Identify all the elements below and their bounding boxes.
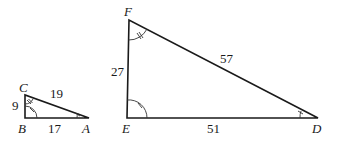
vertex-e-label: E [121,121,130,136]
side-ba-length: 17 [48,121,62,136]
vertex-a-label: A [81,121,90,136]
similar-triangles-figure: C B A 9 19 17 F E D 27 57 51 [0,0,342,144]
side-fd-length: 57 [220,51,234,66]
vertex-c-label: C [19,80,28,95]
side-ed-length: 51 [207,121,220,136]
side-ca-length: 19 [50,86,63,101]
vertex-f-label: F [123,4,133,19]
triangle-def-outline [127,20,318,118]
triangle-abc: C B A 9 19 17 [12,80,90,136]
side-ef-length: 27 [111,64,125,79]
angle-e-arc [127,100,147,118]
side-bc-length: 9 [12,98,19,113]
angle-b-arc [25,106,37,118]
triangle-def: F E D 27 57 51 [111,4,322,136]
vertex-b-label: B [18,121,26,136]
vertex-d-label: D [311,121,322,136]
